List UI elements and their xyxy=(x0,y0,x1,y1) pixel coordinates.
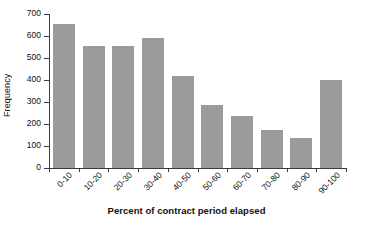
x-axis-tick-label: 30-40 xyxy=(141,170,163,192)
bar-chart: Frequency 0100200300400500600700 0-1010-… xyxy=(0,0,373,226)
bar xyxy=(142,38,164,168)
y-axis-tick: 200 xyxy=(44,124,49,125)
y-axis-line xyxy=(49,14,50,168)
bar xyxy=(320,80,342,168)
y-axis-tick-label: 300 xyxy=(27,96,41,106)
y-axis-tick-label: 100 xyxy=(27,140,41,150)
x-axis-tick-label: 50-60 xyxy=(201,170,223,192)
x-axis-tick-label: 90-100 xyxy=(316,170,342,196)
bar xyxy=(112,46,134,168)
y-axis-tick-label: 700 xyxy=(27,8,41,18)
bar xyxy=(53,24,75,168)
x-axis-tick-labels: 0-1010-2020-3030-4040-5050-6060-7070-808… xyxy=(49,170,346,204)
bar xyxy=(290,138,312,168)
y-axis-tick-label: 600 xyxy=(27,30,41,40)
y-axis-title: Frequency xyxy=(2,45,16,145)
x-axis-tick-label: 0-10 xyxy=(55,170,74,189)
y-axis-tick: 600 xyxy=(44,36,49,37)
bar xyxy=(231,116,253,168)
x-axis-tick-label: 10-20 xyxy=(82,170,104,192)
plot-area: 0100200300400500600700 xyxy=(49,14,346,168)
x-axis-tick-label: 20-30 xyxy=(111,170,133,192)
y-axis-tick: 400 xyxy=(44,80,49,81)
x-axis-title: Percent of contract period elapsed xyxy=(0,205,373,216)
y-axis-tick-label: 200 xyxy=(27,118,41,128)
y-axis-tick: 100 xyxy=(44,146,49,147)
x-axis-tick-label: 80-90 xyxy=(290,170,312,192)
x-axis-tick-label: 60-70 xyxy=(230,170,252,192)
x-axis-tick xyxy=(346,168,347,172)
y-axis-tick: 700 xyxy=(44,14,49,15)
bar xyxy=(83,46,105,168)
y-axis-tick-label: 400 xyxy=(27,74,41,84)
bar xyxy=(261,130,283,169)
bar xyxy=(201,105,223,168)
y-axis-tick: 300 xyxy=(44,102,49,103)
x-axis-tick-label: 40-50 xyxy=(171,170,193,192)
x-axis-tick-label: 70-80 xyxy=(260,170,282,192)
bar xyxy=(172,76,194,168)
y-axis-tick-label: 0 xyxy=(36,162,41,172)
y-axis-tick: 500 xyxy=(44,58,49,59)
y-axis-tick-label: 500 xyxy=(27,52,41,62)
